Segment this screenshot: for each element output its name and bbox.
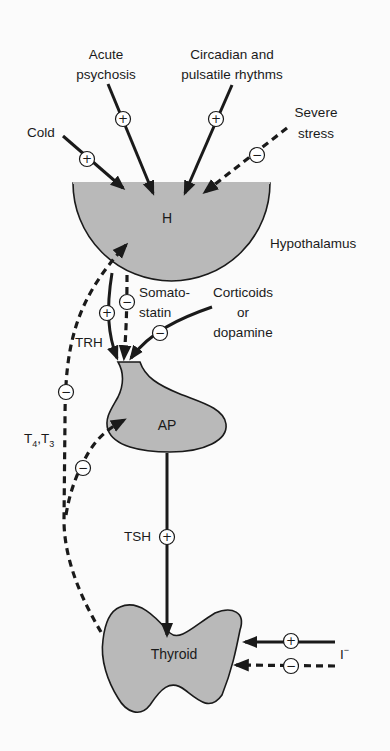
hpt-axis-diagram: + + + − + − − − − + + − Co — [0, 0, 390, 751]
t4t3-hypothalamus-sign: − — [59, 385, 74, 400]
corticoids-label-2: or — [237, 305, 250, 320]
hypothalamus-short-label: H — [162, 210, 172, 226]
somatostatin-sign: − — [120, 295, 135, 310]
circadian-label-1: Circadian and — [190, 47, 273, 62]
svg-text:+: + — [118, 112, 128, 126]
acute-psychosis-arrow — [108, 84, 153, 193]
somatostatin-label-2: statin — [139, 305, 171, 320]
cold-label: Cold — [27, 125, 55, 140]
iodide-negative-sign: − — [284, 659, 299, 674]
somatostatin-arrow — [124, 275, 127, 358]
pituitary-short-label: AP — [158, 417, 177, 433]
tsh-sign: + — [160, 530, 175, 545]
hypothalamus-label: Hypothalamus — [270, 236, 357, 251]
svg-text:−: − — [286, 659, 296, 673]
acute-psychosis-label-1: Acute — [89, 47, 124, 62]
iodide-positive-sign: + — [284, 634, 299, 649]
svg-text:−: − — [252, 148, 262, 162]
trh-sign: + — [100, 306, 115, 321]
severe-stress-label-2: stress — [298, 126, 334, 141]
somatostatin-label-1: Somato- — [139, 285, 190, 300]
cold-sign: + — [80, 152, 95, 167]
t4t3-label: T4,T3 — [24, 431, 54, 449]
anterior-pituitary-shape — [107, 362, 226, 452]
svg-text:−: − — [155, 326, 165, 340]
svg-text:+: + — [162, 530, 172, 544]
severe-stress-sign: − — [250, 148, 265, 163]
thyroid-label: Thyroid — [151, 646, 198, 662]
svg-text:−: − — [122, 295, 132, 309]
t4t3-pituitary-sign: − — [76, 461, 91, 476]
tsh-label: TSH — [124, 529, 151, 544]
svg-text:+: + — [286, 634, 296, 648]
iodide-label: I− — [340, 645, 349, 662]
circadian-sign: + — [209, 112, 224, 127]
svg-text:+: + — [82, 152, 92, 166]
trh-label: TRH — [75, 335, 103, 350]
acute-psychosis-label-2: psychosis — [76, 67, 136, 82]
circadian-label-2: pulsatile rhythms — [181, 67, 283, 82]
corticoids-sign: − — [153, 326, 168, 341]
hypothalamus-shape — [73, 183, 270, 281]
svg-text:+: + — [211, 112, 221, 126]
svg-text:−: − — [78, 461, 88, 475]
severe-stress-label-1: Severe — [295, 105, 338, 120]
acute-psychosis-sign: + — [116, 112, 131, 127]
corticoids-label-1: Corticoids — [213, 285, 273, 300]
svg-text:−: − — [61, 385, 71, 399]
svg-text:+: + — [102, 306, 112, 320]
corticoids-label-3: dopamine — [213, 325, 272, 340]
